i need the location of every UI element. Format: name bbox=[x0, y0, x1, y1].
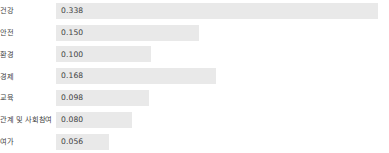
horizontal-bar-chart: 건강 0.338 안전 0.150 환경 0.100 경제 0.168 교육 0… bbox=[0, 0, 389, 153]
bar-track bbox=[56, 65, 389, 87]
chart-row: 관계 및 사회참여 0.080 bbox=[0, 109, 389, 131]
value-label: 0.338 bbox=[61, 0, 83, 22]
bar-track bbox=[56, 131, 389, 153]
bar-track bbox=[56, 22, 389, 44]
chart-row: 안전 0.150 bbox=[0, 22, 389, 44]
category-label: 안전 bbox=[0, 22, 54, 44]
chart-row: 경제 0.168 bbox=[0, 65, 389, 87]
category-label: 여가 bbox=[0, 131, 54, 153]
value-label: 0.098 bbox=[61, 87, 83, 109]
chart-row: 교육 0.098 bbox=[0, 87, 389, 109]
chart-row: 건강 0.338 bbox=[0, 0, 389, 22]
bar-track bbox=[56, 0, 389, 22]
chart-row: 환경 0.100 bbox=[0, 44, 389, 66]
category-label: 환경 bbox=[0, 44, 54, 66]
value-label: 0.056 bbox=[61, 131, 83, 153]
chart-row: 여가 0.056 bbox=[0, 131, 389, 153]
category-label: 경제 bbox=[0, 65, 54, 87]
value-label: 0.100 bbox=[61, 44, 83, 66]
bar-track bbox=[56, 44, 389, 66]
category-label: 건강 bbox=[0, 0, 54, 22]
bar bbox=[56, 3, 378, 19]
value-label: 0.150 bbox=[61, 22, 83, 44]
category-label: 교육 bbox=[0, 87, 54, 109]
bar-track bbox=[56, 87, 389, 109]
category-label: 관계 및 사회참여 bbox=[0, 109, 54, 131]
value-label: 0.080 bbox=[61, 109, 83, 131]
bar-track bbox=[56, 109, 389, 131]
value-label: 0.168 bbox=[61, 65, 83, 87]
